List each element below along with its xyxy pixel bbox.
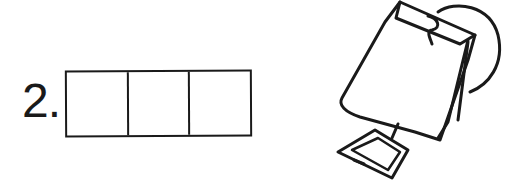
answer-boxes — [65, 70, 252, 138]
item-number: 2. — [22, 77, 60, 125]
answer-box-1[interactable] — [67, 72, 129, 135]
answer-box-3[interactable] — [190, 72, 250, 135]
answer-box-2[interactable] — [129, 72, 191, 135]
tea-bag-icon — [320, 0, 515, 183]
